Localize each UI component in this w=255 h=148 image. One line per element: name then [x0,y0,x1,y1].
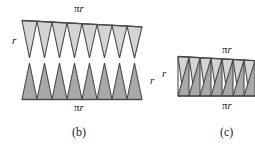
panel-c-caption: (c) [220,126,233,138]
panel-c-graphic [160,0,255,148]
panel-b-caption: (b) [72,126,86,138]
panel-c-bottom-length-label: πr [222,100,232,111]
interlocked-band-triangles [178,57,255,97]
panel-b-bottom-length-label: πr [74,102,84,113]
lower-band-triangles [22,63,142,100]
panel-c: πr r πr (c) [160,0,255,148]
upper-band-triangles [22,21,142,59]
panel-c-top-length-label: πr [222,44,232,55]
panel-c-left-radius-label: r [162,68,166,79]
panel-b-top-length-label: πr [74,3,84,14]
panel-b-left-radius-label: r [12,35,16,46]
figure-container: πr r r πr (b) [0,0,255,148]
panel-b: πr r r πr (b) [0,0,168,148]
panel-b-right-radius-label: r [150,75,154,86]
